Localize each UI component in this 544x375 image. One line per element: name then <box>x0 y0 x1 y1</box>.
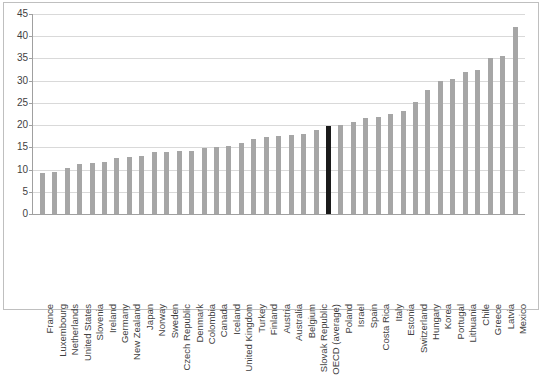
bar <box>214 147 219 214</box>
x-tick-label: Portugal <box>456 304 466 339</box>
bar <box>314 130 319 214</box>
x-tick-label: France <box>45 304 55 334</box>
bar <box>52 172 57 214</box>
x-tick-label: Austria <box>282 304 292 334</box>
bar <box>326 126 331 214</box>
x-tick-label: Norway <box>157 304 167 336</box>
bar <box>289 135 294 214</box>
x-tick-label: Czech Republic <box>182 304 192 371</box>
bar <box>127 157 132 214</box>
x-tick-label: OECD (average) <box>331 304 341 375</box>
bar <box>226 146 231 214</box>
x-tick-label: New Zealand <box>132 304 142 360</box>
y-tick-label: 30 <box>17 76 28 86</box>
x-tick-label: Denmark <box>195 304 205 343</box>
x-tick-label: Greece <box>493 304 503 335</box>
chart-frame: 051015202530354045 FranceLuxembourgNethe… <box>3 2 539 310</box>
x-axis: FranceLuxembourgNetherlandsUnited States… <box>32 216 524 308</box>
bar <box>463 72 468 214</box>
bar <box>388 114 393 214</box>
bars-series <box>33 14 525 214</box>
x-tick-label: Chile <box>481 304 491 326</box>
bar <box>264 137 269 214</box>
x-tick-label: Costa Rica <box>381 304 391 350</box>
x-tick-label: Belgium <box>307 304 317 338</box>
bar <box>177 151 182 214</box>
bar <box>40 173 45 214</box>
bar <box>425 90 430 214</box>
bar <box>401 111 406 214</box>
x-tick-label: Mexico <box>518 304 528 334</box>
y-tick-label: 15 <box>17 142 28 152</box>
x-tick-label: Sweden <box>170 304 180 338</box>
y-tick-label: 0 <box>22 209 28 219</box>
x-tick-label: Luxembourg <box>58 304 68 357</box>
bar <box>114 158 119 214</box>
bar <box>77 164 82 214</box>
x-tick-label: Ireland <box>108 304 118 333</box>
x-tick-label: Finland <box>269 304 279 335</box>
x-tick-label: Spain <box>369 304 379 328</box>
plot-area <box>32 14 525 215</box>
bar <box>338 125 343 214</box>
x-tick-label: Slovenia <box>95 304 105 340</box>
x-tick-label: Iceland <box>232 304 242 335</box>
y-tick-label: 40 <box>17 31 28 41</box>
bar <box>351 122 356 214</box>
y-tick-label: 35 <box>17 53 28 63</box>
bar <box>152 152 157 214</box>
chart-plot-wrapper: 051015202530354045 FranceLuxembourgNethe… <box>4 3 540 309</box>
y-tick-label: 25 <box>17 98 28 108</box>
bar <box>65 168 70 214</box>
x-tick-label: Slovak Republic <box>319 304 329 372</box>
bar <box>488 58 493 214</box>
bar <box>413 102 418 214</box>
bar <box>251 139 256 214</box>
bar <box>189 151 194 214</box>
x-tick-label: Switzerland <box>419 304 429 353</box>
bar <box>513 27 518 214</box>
x-tick-label: United Kingdom <box>244 304 254 372</box>
y-axis: 051015202530354045 <box>4 3 31 219</box>
bar <box>301 134 306 214</box>
x-tick-label: Hungary <box>431 304 441 340</box>
bar <box>164 152 169 214</box>
y-tickmark <box>29 214 33 215</box>
x-tick-label: Germany <box>120 304 130 343</box>
x-tick-label: Canada <box>219 304 229 337</box>
bar <box>450 79 455 214</box>
x-tick-label: United States <box>83 304 93 361</box>
x-tick-label: Lithuania <box>468 304 478 343</box>
x-tick-label: Israel <box>356 304 366 327</box>
x-tick-label: Poland <box>344 304 354 334</box>
x-tick-label: Australia <box>294 304 304 341</box>
bar <box>438 81 443 214</box>
y-tick-label: 20 <box>17 120 28 130</box>
bar <box>239 143 244 214</box>
x-tick-label: Netherlands <box>70 304 80 355</box>
bar <box>276 136 281 214</box>
x-tick-label: Turkey <box>257 304 267 333</box>
x-tick-label: Estonia <box>406 304 416 336</box>
bar <box>500 56 505 214</box>
y-tick-label: 5 <box>22 187 28 197</box>
bar <box>102 162 107 214</box>
bar <box>90 163 95 214</box>
bar <box>139 156 144 214</box>
x-tick-label: Italy <box>394 304 404 321</box>
x-tick-label: Japan <box>145 304 155 330</box>
x-tick-label: Latvia <box>506 304 516 329</box>
bar <box>475 70 480 214</box>
bar <box>363 118 368 214</box>
bar <box>376 117 381 214</box>
x-tick-label: Colombia <box>207 304 217 344</box>
y-tick-label: 10 <box>17 165 28 175</box>
bar <box>202 148 207 214</box>
y-tick-label: 45 <box>17 9 28 19</box>
x-tick-label: Korea <box>443 304 453 329</box>
